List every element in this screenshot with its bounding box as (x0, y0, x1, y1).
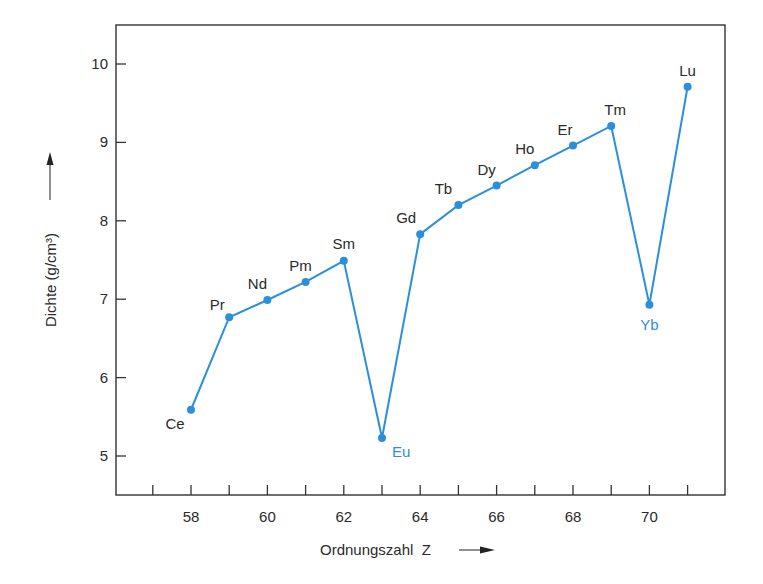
element-label: Eu (392, 443, 410, 460)
x-tick-label: 68 (565, 508, 582, 525)
data-point (187, 406, 195, 414)
y-tick-label: 9 (100, 133, 108, 150)
x-axis-label: Ordnungszahl Z (320, 541, 431, 558)
y-tick-label: 5 (100, 447, 108, 464)
element-label: Sm (333, 235, 356, 252)
x-tick-label: 70 (641, 508, 658, 525)
element-label: Tb (435, 180, 453, 197)
x-axis: 58606264666870 (153, 485, 688, 525)
data-point (378, 434, 386, 442)
data-point (454, 201, 462, 209)
data-point (684, 83, 692, 91)
element-label: Dy (477, 161, 496, 178)
data-point (225, 313, 233, 321)
element-labels: CePrNdPmSmEuGdTbDyHoErTmYbLu (165, 62, 696, 460)
element-label: Ho (515, 140, 534, 157)
y-tick-label: 10 (91, 55, 108, 72)
data-point (340, 257, 348, 265)
plot-frame (116, 25, 725, 495)
element-label: Pr (210, 296, 225, 313)
x-tick-label: 66 (488, 508, 505, 525)
x-tick-label: 64 (412, 508, 429, 525)
x-tick-label: 58 (183, 508, 200, 525)
element-label: Lu (679, 62, 696, 79)
element-label: Ce (165, 415, 184, 432)
data-point (493, 182, 501, 190)
data-point (416, 230, 424, 238)
x-tick-label: 62 (335, 508, 352, 525)
element-label: Nd (248, 275, 267, 292)
data-point (302, 278, 310, 286)
x-axis-arrow-icon (480, 547, 495, 554)
y-axis-arrow-icon (47, 152, 54, 165)
element-label: Yb (640, 316, 658, 333)
x-tick-label: 60 (259, 508, 276, 525)
series-line (191, 87, 688, 438)
y-tick-label: 8 (100, 212, 108, 229)
data-point (263, 296, 271, 304)
data-point (607, 122, 615, 130)
data-point (645, 301, 653, 309)
element-label: Pm (289, 257, 312, 274)
element-label: Er (558, 121, 573, 138)
element-label: Tm (604, 101, 626, 118)
y-tick-label: 7 (100, 290, 108, 307)
y-axis-label: Dichte (g/cm³) (42, 233, 59, 327)
y-axis: 5678910 (91, 55, 126, 464)
y-tick-label: 6 (100, 369, 108, 386)
data-points (187, 83, 692, 442)
element-label: Gd (396, 209, 416, 226)
y-axis-title: Dichte (g/cm³) (42, 233, 59, 327)
density-chart: 5678910 58606264666870 CePrNdPmSmEuGdTbD… (0, 0, 763, 584)
data-point (531, 161, 539, 169)
data-point (569, 142, 577, 150)
